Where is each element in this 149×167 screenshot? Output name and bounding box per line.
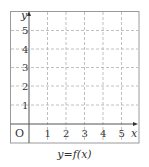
y-tick-3: 3 xyxy=(22,62,28,73)
x-axis-label: x xyxy=(131,127,138,140)
origin-label: O xyxy=(15,127,24,140)
y-tick-4: 4 xyxy=(22,44,28,55)
y-axis-label: y xyxy=(20,9,28,22)
x-axis-arrow-icon xyxy=(133,122,138,126)
horizontal-gridlines xyxy=(11,31,138,106)
x-tick-1: 1 xyxy=(45,128,51,139)
coordinate-grid: y x O 5 4 3 2 1 1 2 3 4 5 xyxy=(0,0,149,167)
x-tick-2: 2 xyxy=(63,128,69,139)
vertical-gridlines xyxy=(48,12,122,142)
y-tick-2: 2 xyxy=(22,81,28,92)
x-tick-5: 5 xyxy=(119,128,125,139)
x-tick-4: 4 xyxy=(100,128,106,139)
function-caption: y=f(x) xyxy=(0,148,149,161)
grid-border xyxy=(11,12,140,144)
x-tick-3: 3 xyxy=(82,128,88,139)
y-tick-1: 1 xyxy=(22,100,28,111)
y-tick-5: 5 xyxy=(22,25,28,36)
